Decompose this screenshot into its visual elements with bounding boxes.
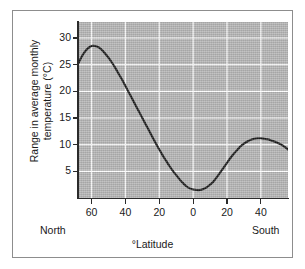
x-axis-tick [125, 199, 126, 204]
y-axis-tick [73, 117, 77, 118]
y-axis-tick [73, 144, 77, 145]
x-axis-tick-label: 20 [146, 206, 172, 218]
x-axis-tick-label: 20 [214, 206, 240, 218]
y-axis-tick [73, 91, 77, 92]
y-axis-tick-label: 30 [59, 32, 71, 42]
x-axis-tick-label: 60 [79, 206, 105, 218]
plot-area [78, 22, 288, 198]
hemisphere-label-south: South [252, 224, 279, 236]
y-axis-title: Range in average monthly temperature (°C… [28, 11, 54, 191]
x-axis-tick [260, 199, 261, 204]
x-axis-tick [159, 199, 160, 204]
y-axis-title-line1: Range in average monthly [28, 11, 41, 191]
figure: 30252015105 60402002040 Range in average… [0, 0, 305, 269]
y-axis-tick-label: 20 [59, 85, 71, 95]
x-axis-title: °Latitude [0, 238, 305, 250]
y-axis-line [77, 21, 79, 199]
gridlines [78, 22, 288, 198]
x-axis-tick-label: 40 [112, 206, 138, 218]
hemisphere-label-north: North [40, 224, 66, 236]
x-axis-tick [226, 199, 227, 204]
y-axis-tick-label: 25 [59, 59, 71, 69]
y-axis-tick [73, 171, 77, 172]
x-axis-tick [91, 199, 92, 204]
y-axis-title-line2: temperature (°C) [41, 11, 54, 191]
x-axis-tick-label: 0 [180, 206, 206, 218]
plot-svg [78, 22, 288, 198]
x-axis-tick-label: 40 [248, 206, 274, 218]
y-axis-tick-label: 15 [59, 112, 71, 122]
y-axis-tick [73, 64, 77, 65]
y-axis-tick-label: 5 [65, 165, 71, 175]
y-axis-tick [73, 37, 77, 38]
x-axis-line [77, 198, 289, 200]
x-axis-tick [193, 199, 194, 204]
y-axis-tick-label: 10 [59, 139, 71, 149]
